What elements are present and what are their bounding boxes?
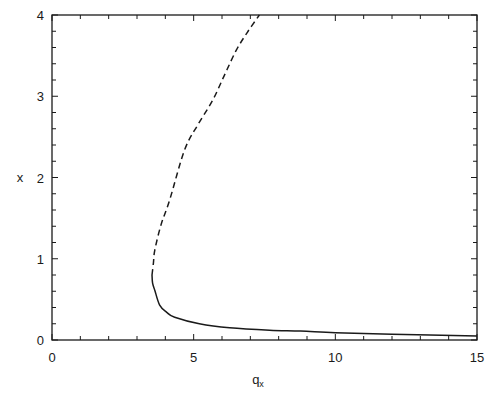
x-tick-label: 10 <box>328 350 342 365</box>
x-axis-label-main: q <box>252 372 259 387</box>
y-tick-label: 0 <box>37 333 44 348</box>
x-tick-label: 15 <box>470 350 484 365</box>
solid-curve <box>152 275 477 336</box>
y-tick-label: 2 <box>37 171 44 186</box>
y-tick-label: 1 <box>37 252 44 267</box>
x-tick-label: 0 <box>48 350 55 365</box>
x-axis-label-subscript: x <box>259 379 264 389</box>
dashed-curve <box>152 15 259 275</box>
curves <box>152 15 477 336</box>
plot-frame <box>52 15 477 340</box>
x-axis-label: qx <box>252 372 264 389</box>
tick-labels: 05101501234 <box>37 8 484 365</box>
x-tick-label: 5 <box>190 350 197 365</box>
chart: 05101501234 x qx <box>0 0 497 400</box>
y-tick-label: 3 <box>37 89 44 104</box>
y-axis-label: x <box>17 170 24 185</box>
y-tick-label: 4 <box>37 8 44 23</box>
axis-ticks <box>52 15 477 340</box>
